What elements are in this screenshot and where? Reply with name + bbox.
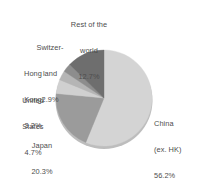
pie-label-switzerland-line1: Switzer-	[26, 44, 74, 53]
pie-label-china: China (ex. HK) 56.2%	[154, 103, 197, 185]
pie-label-japan-line1: Japan	[18, 142, 66, 151]
pie-chart: Rest of the world 12.7% Switzer- land 2.…	[0, 0, 197, 185]
pie-label-china-value: 56.2%	[154, 172, 197, 181]
pie-label-hong-kong-line1: Hong	[11, 70, 55, 79]
pie-label-japan-value: 20.3%	[18, 168, 66, 177]
pie-label-united-states-line1: United	[8, 97, 58, 106]
pie-label-china-line1: China	[154, 120, 197, 129]
pie-label-china-line2: (ex. HK)	[154, 146, 197, 155]
pie-label-japan: Japan 20.3%	[18, 125, 66, 185]
